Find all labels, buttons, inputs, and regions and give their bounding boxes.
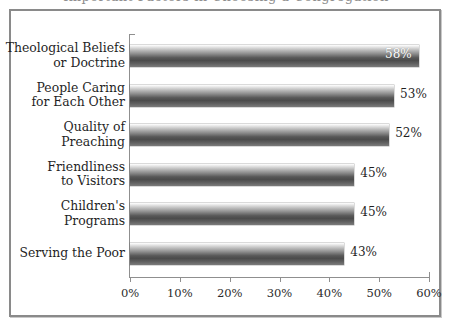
chart-figure: Important Factors in Choosing a Congrega…: [0, 0, 452, 328]
clipped-title-strip: Important Factors in Choosing a Congrega…: [0, 0, 452, 9]
x-axis-tick: [280, 277, 281, 282]
x-axis-tick: [379, 277, 380, 282]
bar-category-label-line1: Children's: [61, 198, 125, 213]
bar-category-label-line2: Programs: [0, 214, 125, 229]
chart-frame: Theological Beliefsor Doctrine58%People …: [9, 9, 441, 317]
bar: [130, 45, 419, 67]
bar: [130, 243, 344, 265]
x-axis-tick-label: 50%: [366, 286, 392, 300]
bar-row: People Caringfor Each Other53%: [11, 81, 443, 119]
x-axis-tick-label: 10%: [167, 286, 193, 300]
bar-category-label-line1: People Caring: [37, 80, 125, 95]
bar-value-label: 45%: [360, 166, 387, 180]
x-axis-tick: [329, 277, 330, 282]
bar-category-label-line2: to Visitors: [0, 174, 125, 189]
bar-row: Friendlinessto Visitors45%: [11, 160, 443, 198]
bar-category-label-line1: Serving the Poor: [20, 245, 125, 260]
bar-category-label: Quality ofPreaching: [0, 120, 125, 149]
bar-category-label-line2: for Each Other: [0, 95, 125, 110]
bar: [130, 203, 354, 225]
x-axis-tick-label: 60%: [416, 286, 442, 300]
bar-value-label: 43%: [350, 245, 377, 259]
x-axis-tick: [230, 277, 231, 282]
bar-category-label: People Caringfor Each Other: [0, 81, 125, 110]
x-axis-tick-label: 20%: [217, 286, 243, 300]
x-axis-tick-label: 0%: [121, 286, 139, 300]
bar-category-label-line1: Theological Beliefs: [6, 40, 125, 55]
y-axis-cap: [129, 34, 135, 35]
bar: [130, 85, 394, 107]
x-axis-tick-label: 30%: [267, 286, 293, 300]
plot-area: Theological Beliefsor Doctrine58%People …: [11, 11, 443, 319]
bar-row: Serving the Poor43%: [11, 239, 443, 277]
bar-row: Children'sPrograms45%: [11, 199, 443, 237]
bar-value-label: 58%: [385, 47, 412, 61]
chart-title: Important Factors in Choosing a Congrega…: [63, 0, 389, 4]
bar: [130, 164, 354, 186]
bar-category-label: Children'sPrograms: [0, 199, 125, 228]
bar-value-label: 53%: [400, 87, 427, 101]
bar-value-label: 52%: [395, 126, 422, 140]
bar-row: Quality ofPreaching52%: [11, 120, 443, 158]
bar: [130, 124, 389, 146]
x-axis-tick: [180, 277, 181, 282]
x-axis-tick-label: 40%: [317, 286, 343, 300]
bar-category-label-line1: Friendliness: [47, 159, 125, 174]
bar-value-label: 45%: [360, 205, 387, 219]
bar-category-label: Theological Beliefsor Doctrine: [0, 41, 125, 70]
bar-category-label-line2: or Doctrine: [0, 56, 125, 71]
bar-category-label: Serving the Poor: [0, 239, 125, 261]
bar-row: Theological Beliefsor Doctrine58%: [11, 41, 443, 79]
bar-category-label: Friendlinessto Visitors: [0, 160, 125, 189]
x-axis-tick: [130, 277, 131, 282]
x-axis-tick: [429, 277, 430, 282]
bar-category-label-line2: Preaching: [0, 135, 125, 150]
bar-category-label-line1: Quality of: [64, 119, 125, 134]
